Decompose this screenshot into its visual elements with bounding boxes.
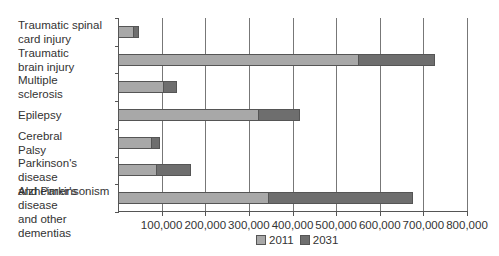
legend-label: 2011 <box>269 234 294 246</box>
bar-row <box>118 26 139 38</box>
x-tick <box>162 211 163 216</box>
category-label: Multiplesclerosis <box>18 73 118 101</box>
bar-row <box>118 137 160 149</box>
gridline <box>380 18 381 212</box>
bar-segment-2031 <box>163 81 177 93</box>
bar-segment-2011 <box>118 26 133 38</box>
bar-segment-2011 <box>118 109 258 121</box>
bar-row <box>118 54 435 66</box>
bar-segment-2031 <box>358 54 435 66</box>
bar-segment-2031 <box>268 192 413 204</box>
x-tick <box>467 211 468 216</box>
x-tick <box>205 211 206 216</box>
bar-segment-2011 <box>118 164 156 176</box>
plot-area <box>118 18 467 212</box>
category-label-line: Traumatic <box>18 46 118 60</box>
y-tick <box>115 101 119 102</box>
category-label-line: sclerosis <box>18 87 118 101</box>
category-label-line: Parkinson's disease <box>18 156 118 184</box>
category-label: Traumatic spinalcard injury <box>18 18 118 46</box>
x-tick-label: 700,000 <box>403 219 445 231</box>
bar-segment-2011 <box>118 81 163 93</box>
gridline <box>423 18 424 212</box>
category-label-line: brain injury <box>18 60 118 74</box>
x-tick <box>336 211 337 216</box>
x-tick-label: 200,000 <box>184 219 226 231</box>
bar-row <box>118 192 413 204</box>
bar-segment-2031 <box>258 109 300 121</box>
bar-segment-2031 <box>151 137 160 149</box>
bar-segment-2031 <box>156 164 191 176</box>
x-tick-label: 800,000 <box>446 219 488 231</box>
x-tick <box>249 211 250 216</box>
legend: 20112031 <box>256 234 344 246</box>
category-label: CerebralPalsy <box>18 129 118 157</box>
legend-label: 2031 <box>313 234 339 246</box>
gridline <box>336 18 337 212</box>
y-tick <box>115 212 119 213</box>
bar-segment-2011 <box>118 137 151 149</box>
category-label: Alzheimer's diseaseand other dementias <box>18 184 118 240</box>
x-tick-label: 600,000 <box>359 219 401 231</box>
y-tick <box>115 73 119 74</box>
category-label-line: card injury <box>18 32 118 46</box>
y-tick <box>115 18 119 19</box>
bar-segment-2011 <box>118 54 358 66</box>
category-label-line: Epilepsy <box>18 108 118 122</box>
y-tick <box>115 46 119 47</box>
x-tick-label: 100,000 <box>141 219 183 231</box>
category-label-line: Traumatic spinal <box>18 18 118 32</box>
category-label-line: Alzheimer's disease <box>18 184 118 212</box>
category-label-line: Cerebral <box>18 129 118 143</box>
bar-row <box>118 81 177 93</box>
x-tick-label: 300,000 <box>228 219 270 231</box>
bar-segment-2011 <box>118 192 268 204</box>
stacked-bar-chart: Traumatic spinalcard injuryTraumaticbrai… <box>0 0 499 256</box>
legend-item: 2011 <box>256 234 294 246</box>
legend-swatch-icon <box>300 235 310 245</box>
legend-swatch-icon <box>256 235 266 245</box>
bar-segment-2031 <box>133 26 139 38</box>
gridline <box>467 18 468 212</box>
x-tick <box>423 211 424 216</box>
category-label-line: and other dementias <box>18 212 118 240</box>
y-tick <box>115 184 119 185</box>
bar-row <box>118 109 300 121</box>
bar-row <box>118 164 191 176</box>
category-label: Epilepsy <box>18 108 118 122</box>
x-tick <box>380 211 381 216</box>
category-label-line: Multiple <box>18 73 118 87</box>
y-tick <box>115 129 119 130</box>
x-tick <box>293 211 294 216</box>
category-label-line: Palsy <box>18 143 118 157</box>
x-tick-label: 500,000 <box>315 219 357 231</box>
category-label: Traumaticbrain injury <box>18 46 118 74</box>
legend-item: 2031 <box>300 234 339 246</box>
y-tick <box>115 157 119 158</box>
x-tick-label: 400,000 <box>272 219 314 231</box>
